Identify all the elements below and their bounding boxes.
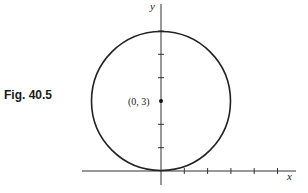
center-point-label: (0, 3)	[128, 96, 150, 108]
y-axis-label: y	[149, 0, 155, 12]
x-axis-label: x	[286, 170, 292, 182]
center-point	[159, 99, 163, 103]
coordinate-diagram: (0, 3) y x	[0, 0, 308, 193]
